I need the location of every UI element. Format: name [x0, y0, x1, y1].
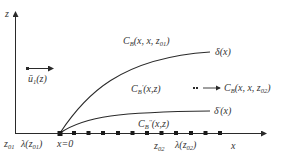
- lambda02-end: ): [193, 139, 196, 150]
- region-label-inner: CB''(x,z): [138, 119, 169, 131]
- curve-label-delta: δ(x): [215, 47, 231, 57]
- region-downstream-base: C: [224, 82, 231, 93]
- region-label-middle: CB'(x,z): [131, 84, 161, 96]
- label-origin: x=0: [57, 139, 73, 149]
- z-axis-label: z: [5, 9, 9, 19]
- region-outer-args: (x, x, z: [134, 35, 160, 46]
- curve-delta-suffix: (x): [220, 46, 231, 57]
- z02-sub: 02: [158, 145, 165, 152]
- downstream-arrow-icon: [193, 87, 220, 89]
- region-label-outer: CB(x, x, z01): [123, 36, 170, 48]
- boundary-curve-delta-prime: [60, 111, 210, 133]
- region-inner-base: C: [138, 118, 145, 129]
- z01-sub: 01: [8, 143, 15, 150]
- region-middle-args: (x,z): [143, 83, 161, 94]
- lambda01-end: ): [39, 138, 42, 149]
- region-outer-args-end: ): [166, 35, 169, 46]
- label-lambda02: λ(z02): [175, 140, 196, 152]
- region-label-downstream: CB(x, x, z02): [224, 83, 271, 95]
- velocity-label: ū1(z): [28, 74, 47, 86]
- curve-delta-prime-suffix: (x): [220, 105, 231, 116]
- region-outer-base: C: [123, 35, 130, 46]
- label-z02: z02: [154, 141, 164, 153]
- region-downstream-args: (x, x, z: [235, 82, 261, 93]
- region-inner-args: (x,z): [152, 118, 170, 129]
- label-z01: z01: [4, 139, 14, 151]
- lambda02-base: λ(z: [175, 139, 187, 150]
- lambda01-base: λ(z: [21, 138, 33, 149]
- region-downstream-args-end: ): [267, 82, 270, 93]
- velocity-arrow-icon: [26, 67, 53, 70]
- label-lambda01: λ(z01): [21, 139, 42, 151]
- velocity-argument: (z): [36, 73, 47, 84]
- region-middle-base: C: [131, 83, 138, 94]
- x-axis-label: x: [231, 141, 235, 151]
- curve-label-delta-prime: δ'(x): [214, 106, 231, 116]
